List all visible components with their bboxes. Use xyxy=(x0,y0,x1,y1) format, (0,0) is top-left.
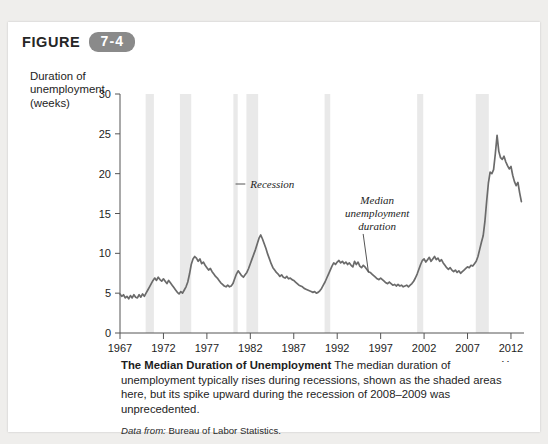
y-tick-label: 25 xyxy=(99,128,111,140)
annotation-line: Recession xyxy=(249,178,294,190)
x-tick-label: 2007 xyxy=(455,342,479,354)
figure-caption: The Median Duration of Unemployment The … xyxy=(121,358,521,416)
caption-block: The Median Duration of Unemployment The … xyxy=(121,358,521,436)
annotation-line: unemployment xyxy=(345,207,410,219)
annotation-line: Median xyxy=(359,194,394,206)
annotation-line: duration xyxy=(358,220,396,232)
line-chart: 0510152025301967197219771982198719921997… xyxy=(8,22,540,362)
y-tick-label: 0 xyxy=(105,327,111,339)
x-tick-label: 1992 xyxy=(325,342,349,354)
caption-lead: The Median Duration of Unemployment xyxy=(121,359,331,371)
x-tick-label: 1987 xyxy=(282,342,306,354)
recession-band xyxy=(476,94,489,333)
figure-panel: FIGURE 7-4 Duration of unemployment (wee… xyxy=(8,22,540,432)
x-tick-label: 2012 xyxy=(499,342,523,354)
x-tick-label: 1977 xyxy=(195,342,219,354)
annotation-recession: Recession xyxy=(236,178,295,190)
y-tick-label: 20 xyxy=(99,168,111,180)
x-tick-label: 1982 xyxy=(238,342,262,354)
recession-band xyxy=(417,94,423,333)
x-tick-label: 1972 xyxy=(151,342,175,354)
recession-band xyxy=(246,94,258,333)
y-tick-label: 30 xyxy=(99,88,111,100)
y-axis-ticks: 051015202530 xyxy=(99,88,120,339)
x-tick-label: 1997 xyxy=(368,342,392,354)
x-axis-ticks: 1967197219771982198719921997200220072012 xyxy=(108,333,523,354)
recession-band xyxy=(180,94,191,333)
recession-band xyxy=(233,94,237,333)
y-tick-label: 15 xyxy=(99,208,111,220)
recession-band xyxy=(325,94,331,333)
source-label: Data from: xyxy=(121,425,166,436)
x-tick-label: 1967 xyxy=(108,342,132,354)
source-value: Bureau of Labor Statistics. xyxy=(166,425,281,436)
recession-band xyxy=(146,94,154,333)
x-tick-label: 2002 xyxy=(412,342,436,354)
y-tick-label: 10 xyxy=(99,247,111,259)
source-line: Data from: Bureau of Labor Statistics. xyxy=(121,425,521,436)
recession-bands xyxy=(146,94,489,333)
y-tick-label: 5 xyxy=(105,287,111,299)
